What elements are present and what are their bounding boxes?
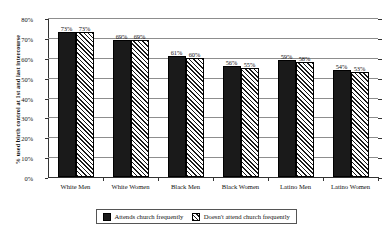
y-tick-mark bbox=[45, 178, 49, 179]
legend-entry-attends: Attends church frequently bbox=[103, 213, 183, 221]
legend-label-attends: Attends church frequently bbox=[115, 213, 184, 220]
x-axis-label: Black Men bbox=[158, 183, 213, 190]
bar-value-label: 54% bbox=[336, 63, 348, 70]
bar-value-label: 61% bbox=[171, 49, 183, 56]
bar-value-label: 73% bbox=[79, 25, 91, 32]
bar-value-label: 73% bbox=[61, 25, 73, 32]
legend-swatch-solid-icon bbox=[103, 213, 111, 221]
bar-value-label: 59% bbox=[281, 53, 293, 60]
y-tick-label: 60% bbox=[1, 55, 33, 62]
bar-group: 61%60% bbox=[158, 18, 213, 177]
bar-value-label: 69% bbox=[116, 33, 128, 40]
bar-value-label: 56% bbox=[226, 59, 238, 66]
y-tick-label: 40% bbox=[1, 95, 33, 102]
bar[interactable]: 54% bbox=[333, 70, 351, 177]
x-axis-label: White Women bbox=[103, 183, 158, 190]
bar-chart: % used birth control at 1st and last int… bbox=[0, 0, 390, 236]
y-tick-mark-right bbox=[378, 39, 382, 40]
bar-value-label: 55% bbox=[244, 61, 256, 68]
y-tick-mark-right bbox=[378, 99, 382, 100]
bar-value-label: 69% bbox=[134, 33, 146, 40]
legend-swatch-hatch-icon bbox=[192, 213, 200, 221]
bar-value-label: 60% bbox=[189, 51, 201, 58]
y-tick-mark-right bbox=[378, 118, 382, 119]
plot-area: 80%70%60%50%40%30%20%10%0% 73%73%69%69%6… bbox=[48, 18, 378, 177]
x-tick-mark bbox=[103, 177, 104, 181]
x-axis-label: Latino Women bbox=[323, 183, 378, 190]
bar[interactable]: 69% bbox=[131, 40, 149, 177]
bar[interactable]: 60% bbox=[186, 58, 204, 177]
x-axis-label: Black Women bbox=[213, 183, 268, 190]
y-tick-mark-right bbox=[378, 59, 382, 60]
x-axis-labels: White MenWhite WomenBlack MenBlack Women… bbox=[48, 183, 378, 190]
y-tick-label: 80% bbox=[1, 16, 33, 23]
bar-groups: 73%73%69%69%61%60%56%55%59%58%54%53% bbox=[48, 18, 378, 177]
y-tick-mark-right bbox=[378, 158, 382, 159]
bar-group: 59%58% bbox=[268, 18, 323, 177]
bar[interactable]: 53% bbox=[351, 72, 369, 177]
bar[interactable]: 55% bbox=[241, 68, 259, 177]
y-tick-mark-right bbox=[378, 19, 382, 20]
bar[interactable]: 69% bbox=[113, 40, 131, 177]
y-tick-label: 70% bbox=[1, 35, 33, 42]
y-tick-label: 30% bbox=[1, 115, 33, 122]
x-tick-mark bbox=[158, 177, 159, 181]
legend-entry-doesnt-attend: Doesn't attend church frequently bbox=[192, 213, 289, 221]
bar[interactable]: 59% bbox=[278, 60, 296, 177]
bar[interactable]: 58% bbox=[296, 62, 314, 177]
bar-group: 73%73% bbox=[48, 18, 103, 177]
legend-label-doesnt-attend: Doesn't attend church frequently bbox=[204, 213, 290, 220]
y-tick-label: 0% bbox=[1, 175, 33, 182]
x-tick-mark bbox=[268, 177, 269, 181]
y-tick-label: 20% bbox=[1, 135, 33, 142]
bar-group: 54%53% bbox=[323, 18, 378, 177]
bar-group: 56%55% bbox=[213, 18, 268, 177]
y-tick-mark-right bbox=[378, 138, 382, 139]
bar-value-label: 53% bbox=[354, 65, 366, 72]
y-tick-label: 10% bbox=[1, 155, 33, 162]
x-axis-label: White Men bbox=[48, 183, 103, 190]
x-axis-label: Latino Men bbox=[268, 183, 323, 190]
x-tick-mark bbox=[213, 177, 214, 181]
x-tick-mark bbox=[323, 177, 324, 181]
bar[interactable]: 61% bbox=[168, 56, 186, 177]
bar-group: 69%69% bbox=[103, 18, 158, 177]
chart-legend: Attends church frequently Doesn't attend… bbox=[96, 209, 297, 224]
bar-value-label: 58% bbox=[299, 55, 311, 62]
bar[interactable]: 73% bbox=[58, 32, 76, 177]
x-tick-mark bbox=[378, 177, 379, 181]
y-tick-mark-right bbox=[378, 79, 382, 80]
bar[interactable]: 73% bbox=[76, 32, 94, 177]
bar[interactable]: 56% bbox=[223, 66, 241, 177]
y-tick-label: 50% bbox=[1, 75, 33, 82]
